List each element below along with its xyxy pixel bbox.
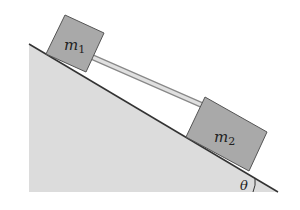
incline-diagram: m1 m2 θ bbox=[0, 0, 300, 210]
angle-theta-label: θ bbox=[240, 178, 248, 193]
